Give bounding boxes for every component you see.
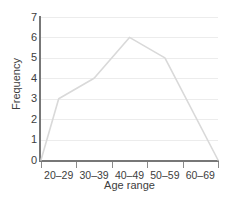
y-tick-label-3: 3	[22, 92, 37, 105]
y-tick-label-6: 6	[22, 31, 37, 44]
x-tick-5	[218, 162, 219, 168]
x-axis-line	[39, 160, 219, 162]
y-tick-label-5: 5	[22, 51, 37, 64]
y-tick-label-1: 1	[22, 133, 37, 146]
frequency-polyline	[41, 37, 218, 160]
x-tick-4	[183, 162, 184, 168]
x-tick-3	[147, 162, 148, 168]
series-frequency-line	[41, 17, 218, 160]
y-tick-label-0: 0	[22, 154, 37, 167]
x-tick-1	[76, 162, 77, 168]
x-axis-title: Age range	[41, 178, 218, 192]
y-tick-label-2: 2	[22, 113, 37, 126]
y-tick-label-7: 7	[22, 11, 37, 24]
x-tick-0	[41, 162, 42, 168]
y-tick-label-4: 4	[22, 72, 37, 85]
plot-area: 20–2930–3940–4950–5960–69	[41, 17, 218, 160]
frequency-polygon-chart: Frequency 01234567 20–2930–3940–4950–596…	[0, 0, 238, 202]
y-axis-tick-labels: 01234567	[22, 10, 37, 162]
x-tick-2	[112, 162, 113, 168]
